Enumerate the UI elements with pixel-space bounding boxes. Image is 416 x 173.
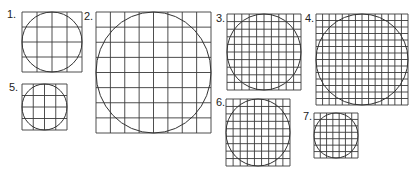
figure-label: 5. <box>9 82 18 93</box>
figure-label: 1. <box>7 9 16 20</box>
figure-label: 4. <box>305 13 314 24</box>
grid-with-circle <box>226 99 290 166</box>
figure-label: 3. <box>216 13 225 24</box>
inscribed-circle <box>226 99 290 166</box>
figure-label: 6. <box>216 97 225 108</box>
figure-label: 2. <box>84 11 93 22</box>
grid-with-circle <box>22 84 67 130</box>
grid-with-circle <box>227 14 301 90</box>
figure-label: 7. <box>303 111 312 122</box>
grid-with-circle <box>316 14 408 105</box>
grid-with-circle <box>96 12 211 133</box>
grid-with-circle <box>22 12 82 72</box>
grid-with-circle <box>314 113 358 158</box>
